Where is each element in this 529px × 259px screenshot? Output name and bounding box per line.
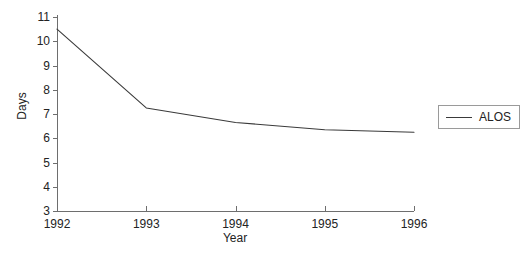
y-axis-title: Days (16, 76, 28, 136)
y-axis-tick-label: 3 (22, 205, 50, 217)
x-axis-tick-label: 1992 (29, 218, 85, 230)
legend-line-swatch-icon (446, 117, 472, 118)
y-axis-tick-label: 5 (22, 157, 50, 169)
x-axis-title: Year (0, 232, 470, 244)
y-axis-tick-label: 4 (22, 181, 50, 193)
y-axis-tick-label: 11 (22, 11, 50, 23)
axis-lines (57, 15, 414, 211)
x-axis-tick-label: 1995 (297, 218, 353, 230)
x-axis-ticks (58, 206, 415, 211)
y-axis-tick-label: 10 (22, 35, 50, 47)
y-axis-tick-label: 9 (22, 60, 50, 72)
series-line-alos (57, 29, 414, 132)
x-axis-tick-label: 1993 (118, 218, 174, 230)
x-axis-tick-label: 1996 (386, 218, 442, 230)
legend-item-label: ALOS (479, 111, 511, 123)
legend: ALOS (438, 105, 520, 129)
x-axis-tick-label: 1994 (208, 218, 264, 230)
y-axis-ticks (53, 18, 57, 212)
chart-container: 34567891011 19921993199419951996 Days Ye… (0, 0, 529, 259)
